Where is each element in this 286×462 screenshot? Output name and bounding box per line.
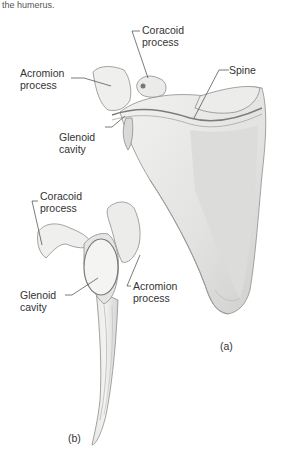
panel-label-b: (b): [68, 432, 81, 444]
label-a-glenoid-cavity: Glenoid cavity: [59, 131, 95, 155]
label-a-spine: Spine: [229, 64, 256, 76]
label-b-coracoid-process: Coracoid process: [40, 190, 82, 214]
panel-label-a: (a): [220, 340, 233, 352]
label-line: Acromion: [20, 67, 64, 79]
scapula-view-b: [37, 202, 140, 445]
label-a-coracoid-process: Coracoid process: [142, 24, 184, 48]
label-b-acromion-process: Acromion process: [133, 280, 177, 304]
label-line: cavity: [59, 143, 95, 155]
label-line: Spine: [229, 64, 256, 76]
label-line: Glenoid: [20, 289, 56, 301]
label-line: process: [40, 202, 82, 214]
label-line: process: [20, 79, 64, 91]
scapula-view-a: [93, 67, 266, 315]
label-line: Acromion: [133, 280, 177, 292]
label-line: Glenoid: [59, 131, 95, 143]
scapula-figure: Coracoid process Acromion process Spine …: [0, 0, 286, 462]
label-line: process: [142, 36, 184, 48]
label-b-glenoid-cavity: Glenoid cavity: [20, 289, 56, 313]
label-line: process: [133, 292, 177, 304]
label-a-acromion-process: Acromion process: [20, 67, 64, 91]
label-line: Coracoid: [40, 190, 82, 202]
label-line: cavity: [20, 301, 56, 313]
label-line: Coracoid: [142, 24, 184, 36]
